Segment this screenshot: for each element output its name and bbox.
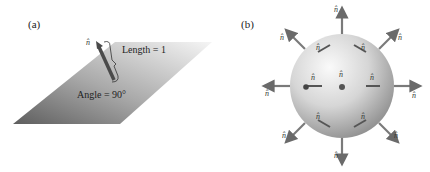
svg-text:n̂: n̂ — [339, 70, 343, 79]
svg-text:n̂: n̂ — [311, 73, 315, 82]
svg-text:n̂: n̂ — [265, 89, 269, 98]
normal-label: n̂ — [86, 38, 90, 47]
svg-text:n̂: n̂ — [361, 112, 365, 121]
svg-text:n̂: n̂ — [280, 33, 284, 42]
length-label: Length = 1 — [122, 44, 166, 55]
svg-text:n̂: n̂ — [398, 33, 402, 42]
svg-text:n̂: n̂ — [316, 112, 320, 121]
svg-text:n̂: n̂ — [412, 91, 416, 100]
panel-b-label: (b) — [241, 18, 254, 31]
svg-text:n̂: n̂ — [370, 73, 374, 82]
figure: (a) n̂ Length = 1 Angle = 90° (b) — [0, 0, 430, 172]
svg-text:n̂: n̂ — [334, 5, 338, 14]
panel-a-label: (a) — [28, 18, 41, 31]
panel-a: (a) n̂ Length = 1 Angle = 90° — [13, 18, 212, 124]
normal-dot-left — [303, 84, 309, 90]
panel-b: (b) n̂ n̂ n̂ n̂ — [241, 5, 416, 160]
normal-dot-center — [339, 84, 345, 90]
svg-text:n̂: n̂ — [361, 43, 365, 52]
svg-text:n̂: n̂ — [282, 131, 286, 140]
angle-label: Angle = 90° — [77, 89, 126, 100]
svg-text:n̂: n̂ — [394, 131, 398, 140]
svg-text:n̂: n̂ — [334, 151, 338, 160]
svg-text:n̂: n̂ — [316, 43, 320, 52]
plane — [13, 42, 212, 124]
